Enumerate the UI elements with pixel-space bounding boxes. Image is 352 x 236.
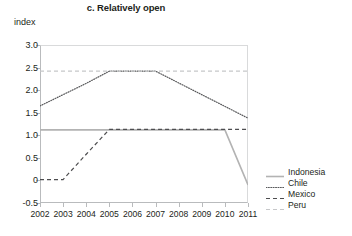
x-tick-mark — [132, 203, 133, 207]
chart-legend: IndonesiaChileMexicoPeru — [266, 166, 352, 210]
x-tick-label: 2002 — [30, 209, 49, 219]
legend-label: Chile — [288, 178, 308, 188]
chart-title: c. Relatively open — [0, 2, 252, 13]
y-tick-label: -0.5 — [4, 198, 38, 208]
x-tick-label: 2003 — [54, 209, 73, 219]
x-tick-mark — [156, 203, 157, 207]
x-tick-mark — [109, 203, 110, 207]
y-axis-unit-label: index — [14, 17, 36, 27]
y-tick-label: 1.5 — [4, 108, 38, 118]
x-tick-mark — [179, 203, 180, 207]
series-line-indonesia — [40, 130, 248, 185]
legend-label: Indonesia — [288, 167, 325, 177]
x-tick-label: 2005 — [100, 209, 119, 219]
x-tick-mark — [202, 203, 203, 207]
x-tick-mark — [40, 203, 41, 207]
legend-swatch-icon — [266, 178, 284, 187]
x-tick-label: 2006 — [123, 209, 142, 219]
y-tick-label: 3.0 — [4, 40, 38, 50]
x-tick-label: 2004 — [77, 209, 96, 219]
x-axis-ticks: 2002200320042005200620072008200920102011 — [40, 203, 248, 229]
legend-label: Mexico — [288, 189, 315, 199]
y-tick-label: 2.0 — [4, 85, 38, 95]
x-tick-label: 2008 — [169, 209, 188, 219]
y-tick-label: 1.0 — [4, 130, 38, 140]
plot-area — [40, 45, 248, 203]
x-tick-mark — [86, 203, 87, 207]
legend-swatch-icon — [266, 200, 284, 209]
x-tick-label: 2007 — [146, 209, 165, 219]
series-line-mexico — [40, 129, 248, 179]
legend-item-peru[interactable]: Peru — [266, 199, 352, 210]
legend-label: Peru — [288, 200, 306, 210]
chart-figure: c. Relatively open index 3.02.52.01.51.0… — [0, 0, 352, 236]
series-line-chile — [40, 71, 248, 118]
legend-item-indonesia[interactable]: Indonesia — [266, 166, 352, 177]
legend-item-mexico[interactable]: Mexico — [266, 188, 352, 199]
legend-item-chile[interactable]: Chile — [266, 177, 352, 188]
legend-swatch-icon — [266, 189, 284, 198]
x-tick-mark — [248, 203, 249, 207]
x-tick-mark — [63, 203, 64, 207]
x-tick-label: 2010 — [215, 209, 234, 219]
x-tick-mark — [225, 203, 226, 207]
x-tick-label: 2011 — [239, 209, 257, 219]
x-tick-label: 2009 — [192, 209, 211, 219]
y-tick-label: 0.5 — [4, 153, 38, 163]
y-axis-ticks: 3.02.52.01.51.00.50-0.5 — [0, 45, 38, 203]
y-tick-label: 2.5 — [4, 63, 38, 73]
legend-swatch-icon — [266, 167, 284, 176]
y-tick-label: 0 — [4, 175, 38, 185]
